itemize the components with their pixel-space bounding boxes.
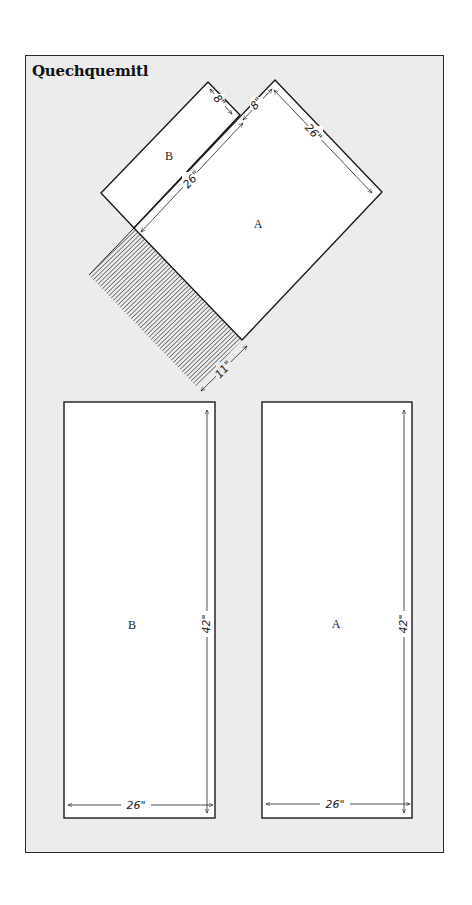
flat-b-height-label: 42" — [200, 614, 213, 633]
folded-label-b: B — [165, 149, 173, 163]
flat-a-height-label: 42" — [397, 614, 410, 633]
flat-a-label: A — [332, 617, 341, 631]
folded-label-a: A — [254, 217, 263, 231]
flat-b-width-label: 26" — [126, 799, 145, 812]
flat-piece-b: 42" 26" B — [64, 402, 215, 818]
flat-b-label: B — [128, 618, 136, 632]
flat-a-width-label: 26" — [325, 798, 344, 811]
quechquemitl-diagram: 8" 8" 26" 26" 11" B A 42" 26" B — [0, 0, 472, 905]
flat-piece-a: 42" 26" A — [262, 402, 412, 818]
